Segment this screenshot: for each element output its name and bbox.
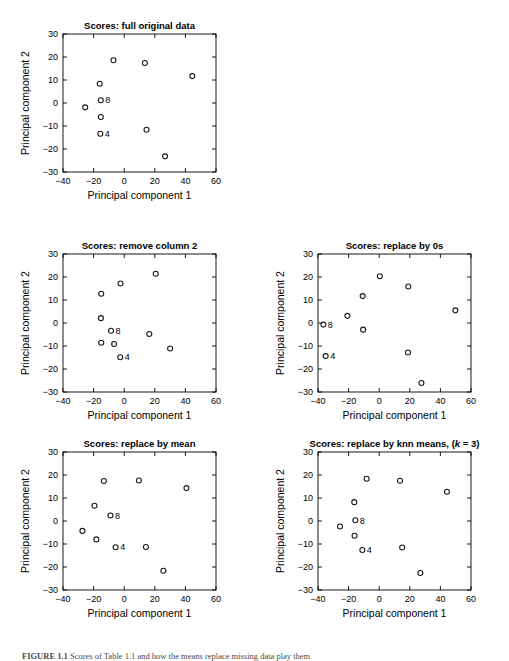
data-point-marker bbox=[361, 327, 366, 332]
data-point-marker bbox=[118, 281, 123, 286]
axis-tick-label: 20 bbox=[303, 470, 313, 480]
axis-tick-label: 0 bbox=[53, 516, 58, 526]
axis-title: Principal component 1 bbox=[88, 189, 192, 201]
data-point-marker bbox=[109, 328, 114, 333]
plot-frame bbox=[63, 34, 216, 172]
data-point-marker bbox=[321, 322, 326, 327]
data-point-marker bbox=[99, 340, 104, 345]
axis-tick-label: 60 bbox=[466, 594, 476, 604]
data-point-marker bbox=[161, 568, 166, 573]
plot-frame bbox=[318, 452, 471, 590]
data-point-marker bbox=[352, 500, 357, 505]
data-point-marker bbox=[98, 131, 103, 136]
axis-tick-label: 10 bbox=[303, 295, 313, 305]
caption-label: FIGURE 1.1 bbox=[22, 651, 68, 661]
axis-title: Principal component 1 bbox=[343, 607, 447, 619]
axis-tick-label: −30 bbox=[43, 387, 58, 397]
axis-tick-label: 40 bbox=[180, 176, 190, 186]
data-point-marker bbox=[360, 547, 365, 552]
data-point-marker bbox=[163, 154, 168, 159]
axis-tick-label: 10 bbox=[48, 295, 58, 305]
data-point-marker bbox=[418, 570, 423, 575]
data-point-marker bbox=[112, 341, 117, 346]
axis-tick-label: 20 bbox=[150, 594, 160, 604]
axis-tick-label: −30 bbox=[43, 167, 58, 177]
data-point-marker bbox=[353, 518, 358, 523]
axis-tick-label: −20 bbox=[341, 396, 356, 406]
axis-tick-label: 10 bbox=[48, 75, 58, 85]
axis-tick-label: −30 bbox=[298, 585, 313, 595]
axis-tick-label: −20 bbox=[86, 176, 101, 186]
data-point-label: 8 bbox=[328, 320, 333, 330]
data-point-label: 8 bbox=[360, 516, 365, 526]
data-point-marker bbox=[364, 476, 369, 481]
data-point-label: 8 bbox=[116, 326, 121, 336]
figure-caption: FIGURE 1.1 Scores of Table 1.1 and how t… bbox=[22, 651, 492, 661]
axis-tick-label: −40 bbox=[55, 176, 70, 186]
axis-tick-label: −40 bbox=[310, 594, 325, 604]
axis-tick-label: −40 bbox=[310, 396, 325, 406]
data-point-label: 4 bbox=[330, 351, 335, 361]
data-point-marker bbox=[98, 115, 103, 120]
axis-tick-label: 10 bbox=[48, 493, 58, 503]
data-point-marker bbox=[147, 332, 152, 337]
data-point-label: 4 bbox=[120, 542, 125, 552]
axis-tick-label: 20 bbox=[48, 272, 58, 282]
axis-tick-label: 10 bbox=[303, 493, 313, 503]
axis-tick-label: 30 bbox=[48, 29, 58, 39]
axis-tick-label: 20 bbox=[48, 470, 58, 480]
plot-frame bbox=[63, 452, 216, 590]
data-point-marker bbox=[113, 545, 118, 550]
axis-tick-label: 0 bbox=[122, 594, 127, 604]
axis-tick-label: 0 bbox=[53, 98, 58, 108]
axis-tick-label: 30 bbox=[48, 447, 58, 457]
plot-title: Scores: replace by mean bbox=[84, 438, 196, 449]
data-point-marker bbox=[400, 545, 405, 550]
data-point-marker bbox=[406, 284, 411, 289]
data-point-label: 8 bbox=[115, 511, 120, 521]
axis-tick-label: 60 bbox=[211, 176, 221, 186]
plot-title: Scores: replace by knn means, (k = 3) bbox=[310, 438, 480, 449]
axis-tick-label: 20 bbox=[150, 176, 160, 186]
plot-title: Scores: full original data bbox=[84, 20, 196, 31]
axis-tick-label: 0 bbox=[377, 594, 382, 604]
plot-panel-replace-by-0s-svg: −40−200204060−30−20−100102030Scores: rep… bbox=[273, 236, 479, 432]
data-point-marker bbox=[99, 291, 104, 296]
axis-tick-label: −20 bbox=[43, 562, 58, 572]
axis-tick-label: 20 bbox=[48, 52, 58, 62]
plot-panel-replace-by-knn-means-svg: −40−200204060−30−20−100102030Scores: rep… bbox=[273, 434, 479, 630]
axis-tick-label: −30 bbox=[43, 585, 58, 595]
axis-tick-label: 0 bbox=[53, 318, 58, 328]
axis-tick-label: 0 bbox=[122, 176, 127, 186]
data-point-label: 4 bbox=[105, 129, 110, 139]
axis-tick-label: −20 bbox=[43, 144, 58, 154]
axis-tick-label: 30 bbox=[303, 249, 313, 259]
axis-tick-label: −10 bbox=[43, 341, 58, 351]
data-point-marker bbox=[377, 274, 382, 279]
caption-text: Scores of Table 1.1 and how the means re… bbox=[70, 651, 310, 661]
data-point-marker bbox=[444, 489, 449, 494]
data-point-marker bbox=[144, 127, 149, 132]
axis-tick-label: −20 bbox=[43, 364, 58, 374]
axis-tick-label: −10 bbox=[43, 121, 58, 131]
data-point-marker bbox=[97, 81, 102, 86]
plot-panel-remove-column-2-svg: −40−200204060−30−20−100102030Scores: rem… bbox=[18, 236, 224, 432]
data-point-marker bbox=[101, 478, 106, 483]
axis-tick-label: 60 bbox=[211, 594, 221, 604]
data-point-marker bbox=[118, 355, 123, 360]
axis-tick-label: −20 bbox=[86, 396, 101, 406]
axis-tick-label: −10 bbox=[43, 539, 58, 549]
axis-tick-label: 40 bbox=[435, 396, 445, 406]
axis-tick-label: 0 bbox=[308, 318, 313, 328]
axis-tick-label: −40 bbox=[55, 594, 70, 604]
axis-tick-label: 20 bbox=[405, 594, 415, 604]
axis-tick-label: −20 bbox=[86, 594, 101, 604]
plot-panel-replace-by-mean-svg: −40−200204060−30−20−100102030Scores: rep… bbox=[18, 434, 224, 630]
axis-tick-label: −30 bbox=[298, 387, 313, 397]
axis-tick-label: −20 bbox=[298, 364, 313, 374]
axis-tick-label: 20 bbox=[303, 272, 313, 282]
plot-frame bbox=[63, 254, 216, 392]
data-point-marker bbox=[168, 346, 173, 351]
axis-tick-label: −40 bbox=[55, 396, 70, 406]
plot-title: Scores: remove column 2 bbox=[82, 240, 198, 251]
